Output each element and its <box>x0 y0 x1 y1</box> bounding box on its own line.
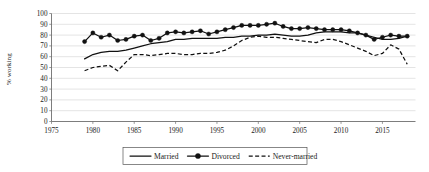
data-point-marker <box>182 31 186 35</box>
data-point-marker <box>157 36 161 40</box>
data-point-marker <box>364 33 368 37</box>
legend-label-divorced: Divorced <box>211 152 239 161</box>
data-point-marker <box>215 30 219 34</box>
data-point-marker <box>190 30 194 34</box>
data-point-marker <box>314 27 318 31</box>
chart-figure: % working 0102030405060708090100 1975198… <box>0 0 429 172</box>
data-point-marker <box>223 28 227 32</box>
data-point-marker <box>99 35 103 39</box>
data-point-marker <box>91 31 95 35</box>
y-tick-label: 50 <box>40 64 48 72</box>
data-point-marker <box>306 25 310 29</box>
data-point-marker <box>149 38 153 42</box>
x-tick-label: 2005 <box>292 127 307 135</box>
data-point-marker <box>107 33 111 37</box>
x-tick-label: 2015 <box>375 127 390 135</box>
x-tick-label: 2010 <box>334 127 349 135</box>
data-point-marker <box>355 31 359 35</box>
data-point-marker <box>347 29 351 33</box>
data-point-marker <box>298 27 302 31</box>
series-line-never-married <box>85 36 408 71</box>
x-tick-label: 1985 <box>127 127 142 135</box>
y-tick-label: 0 <box>44 118 48 126</box>
y-tick-labels-group: 0102030405060708090100 <box>37 10 48 126</box>
data-point-marker <box>322 28 326 32</box>
x-tick-label: 1980 <box>86 127 101 135</box>
data-point-marker <box>264 22 268 26</box>
y-tick-label: 30 <box>40 86 48 94</box>
data-point-marker <box>405 34 409 38</box>
x-tick-label: 1995 <box>210 127 225 135</box>
y-tick-label: 20 <box>40 96 48 104</box>
chart-legend: MarriedDivorcedNever-married <box>123 148 317 165</box>
data-point-marker <box>339 28 343 32</box>
data-point-marker <box>331 28 335 32</box>
data-point-marker <box>389 33 393 37</box>
data-point-marker <box>132 34 136 38</box>
legend-label-never-married: Never-married <box>273 152 318 161</box>
data-point-marker <box>207 32 211 36</box>
data-point-marker <box>256 23 260 27</box>
data-point-marker <box>281 24 285 28</box>
y-tick-label: 40 <box>40 75 48 83</box>
line-chart-svg: 0102030405060708090100 19751980198519901… <box>0 0 429 172</box>
data-point-marker <box>124 37 128 41</box>
y-tick-label: 70 <box>40 42 48 50</box>
data-point-marker <box>240 23 244 27</box>
y-tick-label: 90 <box>40 21 48 29</box>
y-tick-label: 60 <box>40 53 48 61</box>
plot-area-container: 0102030405060708090100 19751980198519901… <box>0 0 429 172</box>
data-point-marker <box>380 35 384 39</box>
data-point-marker <box>273 21 277 25</box>
x-tick-labels-group: 197519801985199019952000200520102015 <box>44 127 390 135</box>
data-point-marker <box>231 25 235 29</box>
legend-label-married: Married <box>154 152 179 161</box>
data-point-marker <box>248 23 252 27</box>
legend-swatch-divorced-marker <box>195 153 200 158</box>
data-point-marker <box>397 34 401 38</box>
data-point-marker <box>173 30 177 34</box>
data-point-marker <box>372 37 376 41</box>
data-point-marker <box>165 31 169 35</box>
data-point-marker <box>140 33 144 37</box>
data-point-marker <box>82 39 86 43</box>
x-tick-label: 2000 <box>251 127 266 135</box>
y-tick-label: 10 <box>40 107 48 115</box>
x-tick-label: 1975 <box>44 127 59 135</box>
data-point-marker <box>198 29 202 33</box>
x-tick-label: 1990 <box>168 127 183 135</box>
y-tick-label: 80 <box>40 32 48 40</box>
data-point-marker <box>116 38 120 42</box>
y-tick-label: 100 <box>37 10 48 18</box>
data-point-marker <box>289 27 293 31</box>
